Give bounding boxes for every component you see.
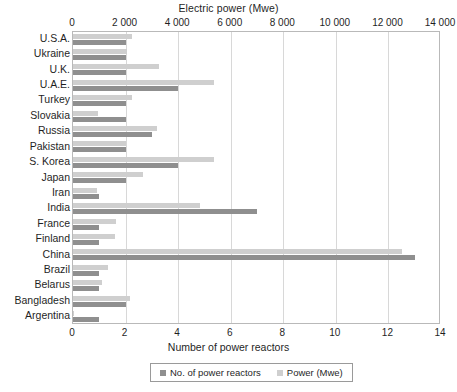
bar-row xyxy=(73,157,439,172)
bar-reactors xyxy=(73,117,126,122)
bar-chart: Electric power (Mwe) 02 0004 0006 0008 0… xyxy=(0,0,457,392)
category-label: S. Korea xyxy=(2,155,70,167)
bar-reactors xyxy=(73,286,99,291)
bottom-tick-5: 10 xyxy=(329,327,340,338)
category-label: Japan xyxy=(2,171,70,183)
legend-swatch-power xyxy=(277,370,283,376)
legend-swatch-reactors xyxy=(160,370,166,376)
bar-reactors xyxy=(73,302,126,307)
category-label: Argentina xyxy=(2,309,70,321)
bar-reactors xyxy=(73,132,152,137)
bar-reactors xyxy=(73,255,415,260)
top-tick-6: 12 000 xyxy=(372,17,403,28)
category-label: U.A.E. xyxy=(2,78,70,90)
category-label: France xyxy=(2,217,70,229)
bar-power xyxy=(73,219,116,224)
legend-item-reactors: No. of power reactors xyxy=(160,367,261,378)
bar-power xyxy=(73,64,159,69)
top-tick-1: 2 000 xyxy=(112,17,137,28)
bar-row xyxy=(73,80,439,95)
legend-label-power: Power (Mwe) xyxy=(287,367,343,378)
bottom-tick-3: 6 xyxy=(227,327,233,338)
bar-power xyxy=(73,80,214,85)
bottom-tick-7: 14 xyxy=(434,327,445,338)
bar-power xyxy=(73,172,143,177)
bar-reactors xyxy=(73,194,99,199)
bar-power xyxy=(73,249,402,254)
bar-row xyxy=(73,95,439,110)
category-label: Pakistan xyxy=(2,140,70,152)
bar-reactors xyxy=(73,40,126,45)
bar-power xyxy=(73,49,127,54)
top-tick-7: 14 000 xyxy=(425,17,456,28)
category-label: China xyxy=(2,248,70,260)
top-axis-title: Electric power (Mwe) xyxy=(0,2,457,14)
top-tick-5: 10 000 xyxy=(320,17,351,28)
bar-power xyxy=(73,188,97,193)
category-label: Slovakia xyxy=(2,109,70,121)
category-label: Brazil xyxy=(2,263,70,275)
bar-row xyxy=(73,234,439,249)
chart-legend: No. of power reactors Power (Mwe) xyxy=(150,363,353,382)
category-label: U.S.A. xyxy=(2,32,70,44)
bottom-tick-1: 2 xyxy=(122,327,128,338)
bar-power xyxy=(73,141,126,146)
top-tick-3: 6 000 xyxy=(217,17,242,28)
bar-row xyxy=(73,311,439,326)
bar-power xyxy=(73,126,157,131)
bar-power xyxy=(73,203,200,208)
bar-row xyxy=(73,219,439,234)
bar-reactors xyxy=(73,55,126,60)
top-tick-2: 4 000 xyxy=(165,17,190,28)
bar-row xyxy=(73,296,439,311)
bar-reactors xyxy=(73,178,126,183)
bar-row xyxy=(73,172,439,187)
bar-reactors xyxy=(73,225,99,230)
bar-row xyxy=(73,265,439,280)
bar-power xyxy=(73,265,108,270)
category-label: India xyxy=(2,201,70,213)
bar-row xyxy=(73,49,439,64)
bar-reactors xyxy=(73,86,178,91)
bar-power xyxy=(73,296,130,301)
bottom-tick-0: 0 xyxy=(69,327,75,338)
top-tick-4: 8 000 xyxy=(270,17,295,28)
bar-row xyxy=(73,203,439,218)
bar-reactors xyxy=(73,101,126,106)
bottom-tick-2: 4 xyxy=(174,327,180,338)
bar-power xyxy=(73,157,214,162)
bar-power xyxy=(73,280,102,285)
category-axis-labels: U.S.A.UkraineU.K.U.A.E.TurkeySlovakiaRus… xyxy=(0,31,70,324)
bar-power xyxy=(73,95,132,100)
bar-reactors xyxy=(73,240,99,245)
bar-row xyxy=(73,64,439,79)
legend-label-reactors: No. of power reactors xyxy=(170,367,261,378)
bar-reactors xyxy=(73,163,178,168)
bar-reactors xyxy=(73,147,126,152)
bar-row xyxy=(73,280,439,295)
category-label: U.K. xyxy=(2,63,70,75)
bar-power xyxy=(73,311,74,316)
bar-row xyxy=(73,111,439,126)
bar-power xyxy=(73,34,132,39)
bar-row xyxy=(73,249,439,264)
bar-row xyxy=(73,188,439,203)
category-label: Russia xyxy=(2,124,70,136)
bar-reactors xyxy=(73,209,257,214)
bar-reactors xyxy=(73,271,99,276)
bar-power xyxy=(73,111,98,116)
category-label: Finland xyxy=(2,232,70,244)
top-tick-0: 0 xyxy=(69,17,75,28)
category-label: Ukraine xyxy=(2,47,70,59)
category-label: Belarus xyxy=(2,278,70,290)
plot-area xyxy=(72,31,440,324)
bar-power xyxy=(73,234,115,239)
bottom-axis-title: Number of power reactors xyxy=(0,341,457,353)
bar-row xyxy=(73,34,439,49)
category-label: Iran xyxy=(2,186,70,198)
category-label: Bangladesh xyxy=(2,294,70,306)
bar-row xyxy=(73,141,439,156)
bottom-tick-6: 12 xyxy=(382,327,393,338)
bar-reactors xyxy=(73,70,126,75)
category-label: Turkey xyxy=(2,93,70,105)
